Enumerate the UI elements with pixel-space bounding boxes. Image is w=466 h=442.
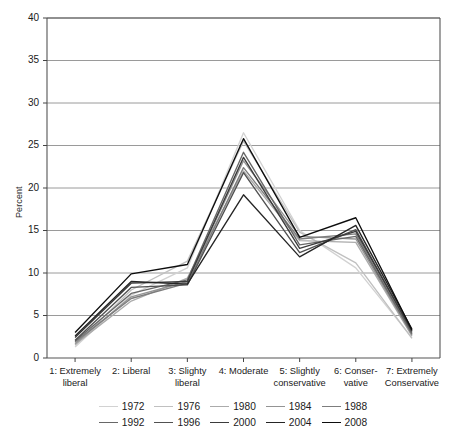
series-line-1980 [75,171,412,344]
x-label-line2: liberal [49,378,101,390]
legend-row-2: 19921996200020042008 [0,414,466,430]
x-axis-tick-label: 5: Slightlyconservative [274,366,326,389]
legend-label: 1984 [289,401,312,412]
x-label-line2: Conservative [385,378,439,390]
legend-item-1988[interactable]: 1988 [322,401,368,412]
x-axis-tick-label: 4: Moderate [219,366,269,378]
chart-legend: 19721976198019841988 1992199620002004200… [0,398,466,430]
legend-line-swatch [322,406,341,407]
legend-item-1992[interactable]: 1992 [99,417,145,428]
legend-line-swatch [266,422,285,423]
legend-line-swatch [154,406,173,407]
x-label-line2: conservative [274,378,326,390]
x-label-line1: 7: Extremely [386,366,438,376]
legend-row-1: 19721976198019841988 [0,398,466,414]
x-label-line2: vative [334,378,377,390]
x-axis-tick-label: 3: Slightyliberal [168,366,206,389]
x-axis-tick-label: 6: Conser-vative [334,366,377,389]
legend-label: 1992 [122,417,145,428]
legend-item-2004[interactable]: 2004 [266,417,312,428]
legend-item-1996[interactable]: 1996 [154,417,200,428]
legend-label: 1980 [233,401,256,412]
legend-item-2000[interactable]: 2000 [210,417,256,428]
x-label-line1: 4: Moderate [219,366,269,376]
legend-label: 1988 [345,401,368,412]
legend-item-2008[interactable]: 2008 [322,417,368,428]
legend-line-swatch [266,406,285,407]
x-axis-tick-label: 2: Liberal [112,366,150,378]
legend-line-swatch [154,422,173,423]
x-label-line1: 1: Extremely [49,366,101,376]
legend-line-swatch [99,422,118,423]
legend-label: 1972 [122,401,145,412]
x-label-line1: 3: Slighty [168,366,206,376]
x-axis-tick-label: 1: Extremelyliberal [49,366,101,389]
x-axis-tick-label: 7: ExtremelyConservative [385,366,439,389]
legend-item-1976[interactable]: 1976 [154,401,200,412]
x-label-line1: 6: Conser- [334,366,377,376]
series-line-1996 [75,173,412,340]
legend-label: 2004 [289,417,312,428]
legend-item-1972[interactable]: 1972 [99,401,145,412]
legend-label: 1976 [177,401,200,412]
legend-item-1980[interactable]: 1980 [210,401,256,412]
x-label-line1: 2: Liberal [112,366,150,376]
series-line-1992 [75,152,412,341]
legend-line-swatch [322,422,341,423]
legend-line-swatch [210,422,229,423]
legend-item-1984[interactable]: 1984 [266,401,312,412]
legend-label: 2000 [233,417,256,428]
legend-label: 2008 [345,417,368,428]
series-line-2004 [75,195,412,336]
line-chart: Percent 0510152025303540 1: Extremelylib… [0,0,466,442]
legend-label: 1996 [177,417,200,428]
x-label-line1: 5: Slightly [279,366,319,376]
legend-line-swatch [210,406,229,407]
legend-line-swatch [99,406,118,407]
x-label-line2: liberal [168,378,206,390]
